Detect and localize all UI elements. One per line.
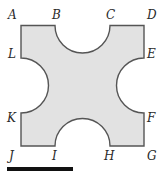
square-semicircles-diagram: A B C D E F G H I J K L — [0, 0, 165, 171]
label-g: G — [147, 149, 157, 163]
black-bar — [7, 167, 73, 171]
label-j: J — [6, 149, 15, 163]
label-l: L — [7, 47, 16, 61]
label-a: A — [7, 8, 17, 22]
label-d: D — [146, 8, 157, 22]
label-e: E — [146, 47, 156, 61]
label-h: H — [103, 149, 115, 163]
label-f: F — [146, 111, 156, 125]
label-k: K — [6, 111, 17, 125]
shaded-region — [21, 26, 144, 147]
label-b: B — [51, 8, 61, 22]
label-i: I — [51, 149, 57, 163]
label-c: C — [106, 8, 115, 22]
